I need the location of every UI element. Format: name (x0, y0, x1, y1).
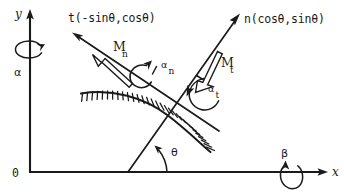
alpha-t-arrowhead (187, 85, 195, 97)
beta-rotation-arrowhead (281, 161, 289, 170)
surface-hatch-marks (82, 91, 215, 151)
normal-vector-arrowhead (230, 14, 240, 26)
alpha-rotation-arc (16, 41, 42, 58)
alpha-n-symbol: α (161, 59, 167, 70)
diagram-canvas: y x 0 α β n(cosθ,sinθ) t(-sinθ,cosθ) (0, 0, 344, 196)
alpha-rotation-arrowhead (37, 44, 45, 51)
theta-arc (159, 150, 168, 172)
x-axis-label: x (332, 165, 339, 179)
origin-label: 0 (12, 166, 19, 180)
normal-vector-group (128, 14, 240, 173)
tangent-vector-label: t(-sinθ,cosθ) (68, 11, 155, 25)
alpha-rotation-label: α (14, 66, 21, 79)
beta-rotation-label: β (281, 147, 288, 160)
angle-alpha-n: α n (130, 59, 175, 88)
theta-label: θ (171, 146, 178, 159)
y-axis-label: y (14, 7, 22, 21)
vector-diagram-figure: y x 0 α β n(cosθ,sinθ) t(-sinθ,cosθ) (0, 0, 344, 196)
normal-vector-label: n(cosθ,sinθ) (244, 12, 325, 26)
rotation-beta-about-x: β (280, 147, 302, 189)
tangent-vector-arrowhead (72, 33, 83, 42)
angle-theta: θ (155, 146, 179, 173)
alpha-t-subscript: t (216, 90, 220, 100)
moment-mn-subscript: n (122, 49, 128, 59)
alpha-n-tick (153, 67, 157, 75)
alpha-t-symbol: α (208, 83, 214, 94)
beta-rotation-arc (280, 166, 302, 189)
alpha-n-subscript: n (169, 66, 175, 76)
moment-mt-subscript: t (230, 65, 234, 75)
